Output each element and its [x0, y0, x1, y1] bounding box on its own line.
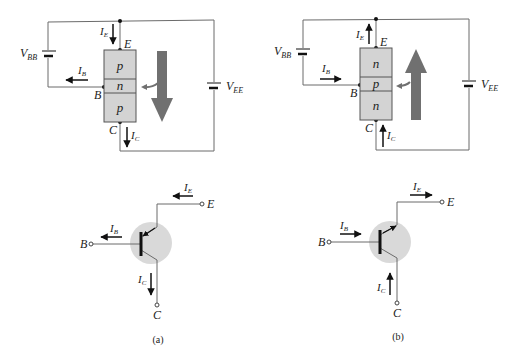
battery-vee [207, 83, 221, 88]
collector-label: C [393, 306, 402, 320]
collector-terminal [395, 301, 399, 305]
ie-label: IE [412, 180, 422, 194]
battery-vee [462, 81, 476, 86]
flow-arrow-down-icon [141, 51, 173, 122]
collector-label: C [153, 308, 162, 322]
vee-label: VEE [481, 77, 498, 93]
base-layer-label: n [117, 78, 124, 93]
battery-vbb [42, 51, 56, 56]
emitter-label: E [206, 197, 215, 211]
vbb-label: VBB [274, 44, 291, 60]
base-layer-label: p [372, 76, 380, 91]
collector-terminal [155, 303, 159, 307]
transistor-body [130, 222, 172, 264]
emitter-terminal [200, 202, 204, 206]
collector-layer-label: p [116, 100, 124, 115]
emitter-terminal [440, 200, 444, 204]
emitter-layer-label: p [116, 58, 124, 73]
ic-label: IC [386, 129, 396, 143]
emitter-label: E [446, 195, 455, 209]
ic-label: IC [130, 129, 140, 143]
panel-a-circuit: VBB VEE p n p E B C IE IB IC [20, 19, 243, 151]
base-terminal-label: B [350, 86, 358, 100]
ib-label: IB [321, 62, 331, 76]
ib-label: IB [339, 219, 349, 233]
vbb-label: VBB [20, 46, 37, 62]
figure-canvas: VBB VEE p n p E B C IE IB IC [0, 0, 519, 348]
panel-b-symbol: B E C IE IB IC (b) [318, 180, 455, 343]
emitter-layer-label: n [373, 56, 380, 71]
vee-label: VEE [226, 79, 243, 95]
ie-label: IE [183, 181, 193, 195]
base-terminal-label: B [94, 88, 102, 102]
npn-block: n p n [360, 48, 392, 120]
caption-b: (b) [392, 331, 404, 343]
ib-label: IB [77, 64, 87, 78]
ie-label: IE [99, 25, 109, 39]
caption-a: (a) [152, 334, 163, 346]
battery-vbb [296, 49, 310, 54]
flow-arrow-up-icon [396, 49, 427, 120]
base-label: B [318, 235, 326, 249]
emitter-terminal-label: E [123, 37, 132, 51]
ic-label: IC [137, 273, 147, 287]
emitter-terminal-label: E [379, 35, 388, 49]
ic-label: IC [376, 281, 386, 295]
collector-terminal-label: C [365, 121, 374, 135]
panel-a-symbol: B E C IE IB IC (a) [80, 181, 215, 346]
base-terminal [89, 242, 93, 246]
collector-terminal-label: C [109, 123, 118, 137]
base-label: B [80, 237, 88, 251]
ie-label: IE [355, 28, 365, 42]
ib-label: IB [109, 222, 119, 236]
collector-layer-label: n [373, 98, 380, 113]
pnp-block: p n p [104, 50, 136, 122]
panel-b-circuit: VBB VEE n p n E B C IE IB IC [274, 17, 498, 150]
base-terminal [327, 240, 331, 244]
